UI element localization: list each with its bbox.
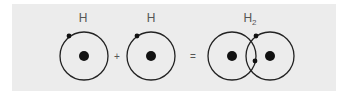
electron	[135, 34, 140, 39]
hydrogen-bond-diagram: H + H = H2	[0, 0, 343, 97]
equals-sign: =	[190, 51, 196, 62]
plus-sign: +	[114, 51, 120, 62]
molecule-label: H2	[243, 11, 257, 27]
nucleus-left	[227, 51, 237, 61]
hydrogen-molecule: H2	[208, 11, 294, 80]
nucleus-right	[265, 51, 275, 61]
shared-electron-1	[254, 34, 259, 39]
nucleus	[146, 51, 156, 61]
atom-label: H	[79, 11, 88, 25]
nucleus	[79, 51, 89, 61]
hydrogen-atom-1: H	[60, 11, 108, 80]
atom-label: H	[147, 11, 156, 25]
electron	[67, 34, 72, 39]
hydrogen-atom-2: H	[127, 11, 175, 80]
shared-electron-2	[253, 59, 258, 64]
